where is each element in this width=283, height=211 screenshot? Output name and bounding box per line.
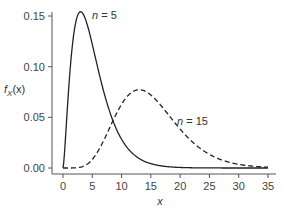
y-axis-label: fX(x) [4, 83, 25, 98]
x-ticks: 05101520253035 [60, 174, 274, 192]
series-n5-line [63, 12, 268, 168]
x-tick-label: 5 [89, 180, 95, 192]
x-tick-label: 15 [145, 180, 157, 192]
x-axis-label: x [156, 195, 163, 207]
y-tick-label: 0.05 [24, 111, 45, 123]
x-tick-label: 20 [174, 180, 186, 192]
x-tick-label: 0 [60, 180, 66, 192]
y-ticks: 0.000.050.100.15 [24, 10, 52, 174]
y-tick-label: 0.10 [24, 61, 45, 73]
annotation-n15: n = 15 [177, 115, 208, 127]
x-tick-label: 30 [233, 180, 245, 192]
series-n15-line [63, 90, 268, 168]
y-tick-label: 0.00 [24, 162, 45, 174]
chart-canvas: 0.000.050.100.15 05101520253035 n = 5 n … [0, 0, 283, 211]
x-tick-label: 35 [262, 180, 274, 192]
annotation-n5: n = 5 [92, 9, 117, 21]
x-tick-label: 10 [115, 180, 127, 192]
y-tick-label: 0.15 [24, 10, 45, 22]
x-tick-label: 25 [203, 180, 215, 192]
